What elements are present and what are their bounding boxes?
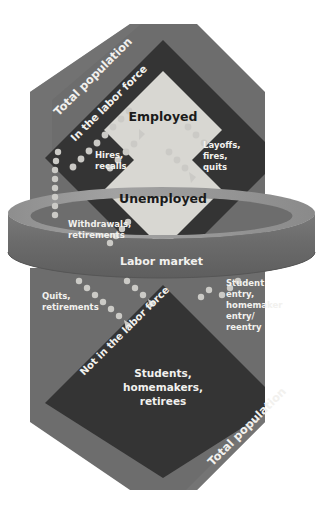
svg-text:homemakers,: homemakers, bbox=[123, 381, 203, 393]
employed-label: Employed bbox=[129, 109, 198, 124]
svg-text:Student: Student bbox=[226, 278, 264, 288]
svg-text:recalls: recalls bbox=[95, 161, 127, 171]
unemployed-label: Unemployed bbox=[119, 191, 207, 206]
svg-text:quits: quits bbox=[203, 162, 227, 172]
labor-market-flow-diagram: Total population In the labor force Empl… bbox=[0, 0, 323, 514]
svg-text:homemaker: homemaker bbox=[226, 300, 283, 310]
svg-text:Withdrawals,: Withdrawals, bbox=[68, 219, 131, 229]
svg-text:retirees: retirees bbox=[140, 395, 187, 407]
svg-text:entry/: entry/ bbox=[226, 311, 256, 321]
svg-text:Layoffs,: Layoffs, bbox=[203, 140, 240, 150]
svg-text:Students,: Students, bbox=[134, 367, 191, 379]
svg-text:fires,: fires, bbox=[203, 151, 228, 161]
svg-text:retirements: retirements bbox=[42, 302, 99, 312]
svg-text:retirements: retirements bbox=[68, 230, 125, 240]
diagram-canvas: Total population In the labor force Empl… bbox=[0, 0, 323, 514]
svg-text:Hires,: Hires, bbox=[95, 150, 123, 160]
withdrawals-retirements-label: Withdrawals, retirements bbox=[68, 219, 131, 240]
svg-text:Quits,: Quits, bbox=[42, 291, 71, 301]
labor-market-label: Labor market bbox=[120, 255, 203, 268]
hires-recalls-label: Hires, recalls bbox=[95, 150, 127, 171]
svg-text:entry,: entry, bbox=[226, 289, 254, 299]
svg-text:reentry: reentry bbox=[226, 322, 262, 332]
